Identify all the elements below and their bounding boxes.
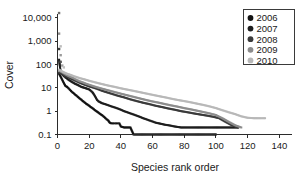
x-tick-label-6: 120	[240, 140, 256, 151]
y-tick-label-2: 10	[41, 82, 52, 93]
legend-label-2010: 2010	[257, 55, 278, 66]
y-axis-tick-labels: 0.11101001,00010,000	[22, 12, 51, 140]
legend-label-2008: 2008	[257, 34, 278, 45]
x-tick-label-4: 80	[179, 140, 190, 151]
y-tick-label-4: 1,000	[28, 35, 52, 46]
y-tick-label-5: 10,000	[22, 12, 51, 23]
legend-marker-2007	[248, 26, 254, 32]
legend-marker-2006	[248, 15, 254, 21]
legend-marker-2009	[248, 47, 254, 53]
data-point	[264, 117, 266, 119]
outlier-point	[63, 66, 65, 68]
chart-figure: 0.11101001,00010,000 020406080100120140 …	[0, 0, 303, 177]
y-axis-title: Cover	[3, 60, 15, 89]
y-tick-label-3: 100	[36, 59, 52, 70]
outlier-point	[58, 48, 60, 50]
outlier-point	[59, 61, 61, 63]
x-tick-label-7: 140	[271, 140, 287, 151]
outlier-point	[58, 32, 60, 34]
x-axis-tick-labels: 020406080100120140	[55, 140, 287, 151]
legend-marker-2008	[248, 36, 254, 42]
x-tick-label-0: 0	[55, 140, 60, 151]
chart-svg: 0.11101001,00010,000 020406080100120140 …	[0, 0, 303, 177]
x-tick-label-5: 100	[208, 140, 224, 151]
legend-label-2006: 2006	[257, 12, 278, 23]
series-2010	[58, 69, 266, 120]
data-point	[240, 126, 242, 128]
x-tick-label-1: 20	[84, 140, 95, 151]
x-tick-label-2: 40	[116, 140, 127, 151]
y-tick-label-0: 0.1	[38, 129, 51, 140]
chart-legend: 20062007200820092010	[244, 10, 295, 66]
x-tick-label-3: 60	[147, 140, 158, 151]
legend-label-2009: 2009	[257, 44, 278, 55]
legend-marker-2010	[248, 58, 254, 64]
outlier-point	[58, 12, 60, 14]
outlier-point	[59, 45, 61, 47]
x-axis-title: Species rank order	[131, 161, 220, 173]
data-series-layer	[58, 59, 266, 136]
legend-label-2007: 2007	[257, 23, 278, 34]
outlier-point	[59, 54, 61, 56]
y-tick-label-1: 1	[46, 105, 51, 116]
